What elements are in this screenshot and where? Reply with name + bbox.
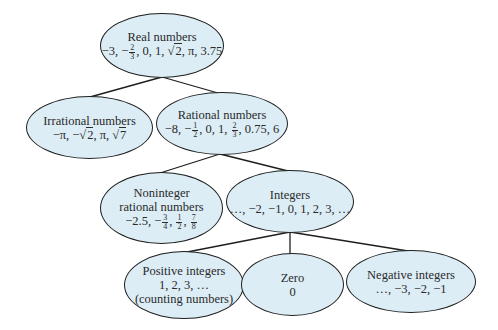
fraction: 23 bbox=[232, 122, 238, 139]
node-title: Zero bbox=[281, 271, 305, 285]
node-examples: 0 bbox=[289, 285, 295, 299]
node-title: Integers bbox=[270, 188, 310, 202]
fraction: 23 bbox=[129, 44, 135, 61]
node-real-numbers: Real numbers −3, −23, 0, 1, √2, π, 3.75 bbox=[100, 13, 224, 78]
node-title: Irrational numbers bbox=[43, 114, 136, 128]
node-examples: 1, 2, 3, … bbox=[159, 278, 209, 292]
node-examples: …, −3, −2, −1 bbox=[375, 282, 446, 296]
edge-rational-integers bbox=[220, 154, 288, 171]
number-classification-diagram: Real numbers −3, −23, 0, 1, √2, π, 3.75 … bbox=[0, 0, 498, 330]
node-examples: −3, −23, 0, 1, √2, π, 3.75 bbox=[102, 44, 223, 61]
node-title: Rational numbers bbox=[178, 108, 267, 122]
node-note: (counting numbers) bbox=[135, 292, 233, 306]
node-negative-integers: Negative integers …, −3, −2, −1 bbox=[346, 250, 476, 313]
node-examples: −2.5, −34, 12, 78 bbox=[125, 214, 197, 231]
fraction: 34 bbox=[162, 214, 168, 231]
edge-real-irrational bbox=[90, 77, 162, 97]
node-examples: −π, −√2, π, √7 bbox=[53, 128, 127, 142]
edge-rational-noninteger bbox=[160, 154, 220, 173]
node-examples: −8, −12, 0, 1, 23, 0.75, 6 bbox=[165, 122, 279, 139]
node-title: Positive integers bbox=[143, 264, 226, 278]
node-noninteger-rational-numbers: Noninteger rational numbers −2.5, −34, 1… bbox=[100, 172, 223, 244]
node-title-line1: Noninteger bbox=[133, 186, 189, 200]
node-title: Real numbers bbox=[127, 30, 196, 44]
node-zero: Zero 0 bbox=[241, 253, 344, 316]
node-rational-numbers: Rational numbers −8, −12, 0, 1, 23, 0.75… bbox=[156, 92, 288, 155]
node-title-line2: rational numbers bbox=[119, 200, 203, 214]
edge-real-rational bbox=[162, 77, 218, 93]
node-examples: …, −2, −1, 0, 1, 2, 3, … bbox=[230, 202, 350, 216]
edge-integers-negative bbox=[290, 232, 408, 251]
fraction: 12 bbox=[176, 214, 182, 231]
node-integers: Integers …, −2, −1, 0, 1, 2, 3, … bbox=[226, 170, 354, 233]
node-title: Negative integers bbox=[367, 268, 455, 282]
fraction: 78 bbox=[191, 214, 197, 231]
node-positive-integers: Positive integers 1, 2, 3, … (counting n… bbox=[124, 251, 244, 319]
fraction: 12 bbox=[192, 122, 198, 139]
node-irrational-numbers: Irrational numbers −π, −√2, π, √7 bbox=[26, 96, 153, 159]
